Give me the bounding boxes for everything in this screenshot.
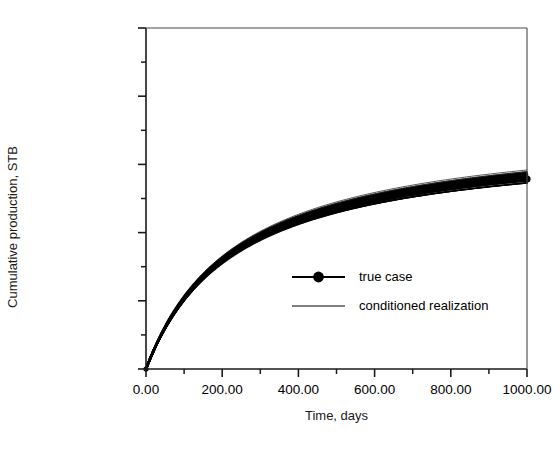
legend-label-conditioned-realization: conditioned realization bbox=[359, 298, 488, 313]
plot-area bbox=[0, 0, 560, 454]
legend-marker-true-case bbox=[313, 272, 324, 283]
legend bbox=[292, 272, 345, 306]
axis-frame bbox=[146, 28, 527, 369]
conditioned-realization-curve bbox=[146, 173, 527, 369]
conditioned-realization-curve bbox=[146, 170, 527, 369]
realization-curves bbox=[143, 170, 530, 372]
cumulative-production-chart: Cumulative production, STB Time, days 0.… bbox=[0, 0, 560, 454]
conditioned-realization-curve bbox=[146, 173, 527, 369]
axis-ticks bbox=[138, 28, 527, 377]
legend-label-true-case: true case bbox=[359, 269, 412, 284]
conditioned-realization-curve bbox=[146, 172, 527, 369]
conditioned-realization-curve bbox=[146, 172, 527, 369]
